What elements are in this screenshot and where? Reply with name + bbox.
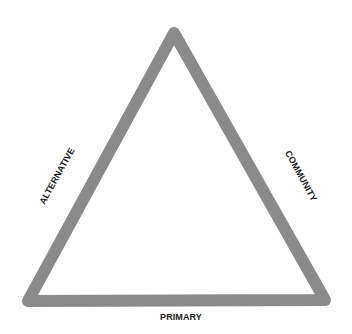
- triangle-diagram: PRIMARY ALTERNATIVE COMMUNITY: [0, 0, 352, 334]
- triangle-outline: [28, 33, 325, 301]
- label-primary: PRIMARY: [155, 312, 207, 322]
